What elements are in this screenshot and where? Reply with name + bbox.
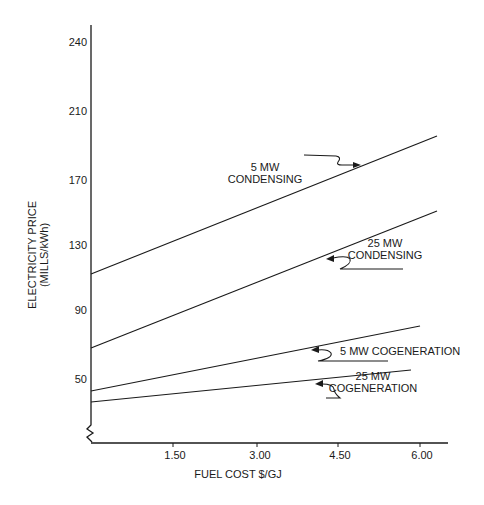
y-tick-label: 240 <box>69 36 87 48</box>
x-tick-label: 6.00 <box>411 449 432 461</box>
y-tick-label: 130 <box>69 239 87 251</box>
x-tick-label: 3.00 <box>249 449 270 461</box>
y-tick-label: 50 <box>75 373 87 385</box>
x-tick-label: 4.50 <box>329 449 350 461</box>
annotation-25mw-condensing: 25 MW CONDENSING <box>326 237 422 269</box>
annotation-5mw-cogeneration: 5 MW COGENERATION <box>311 345 460 361</box>
svg-text:5 MW: 5 MW <box>251 161 280 173</box>
y-tick-label: 90 <box>75 304 87 316</box>
annotation-5mw-condensing: 5 MW CONDENSING <box>228 155 361 185</box>
annotation-25mw-cogeneration: 25 MW COGENERATION <box>315 370 417 398</box>
x-axis-label: FUEL COST $/GJ <box>194 468 281 480</box>
svg-text:CONDENSING: CONDENSING <box>348 249 423 261</box>
y-axis-label: ELECTRICITY PRICE <box>26 201 38 309</box>
svg-text:COGENERATION: COGENERATION <box>329 382 417 394</box>
svg-text:25 MW: 25 MW <box>368 237 403 249</box>
y-axis-units: (MILLS/kWh) <box>38 223 50 287</box>
y-tick-label: 170 <box>69 174 87 186</box>
y-tick-label: 210 <box>69 105 87 117</box>
svg-text:CONDENSING: CONDENSING <box>228 173 303 185</box>
svg-text:25 MW: 25 MW <box>356 370 391 382</box>
y-axis <box>87 25 93 442</box>
x-tick-label: 1.50 <box>164 449 185 461</box>
chart: 1.50 3.00 4.50 6.00 FUEL COST $/GJ 240 2… <box>0 0 484 505</box>
svg-text:5 MW COGENERATION: 5 MW COGENERATION <box>340 345 460 357</box>
arrow-icon <box>304 155 358 165</box>
series-25mw-condensing <box>91 211 437 348</box>
